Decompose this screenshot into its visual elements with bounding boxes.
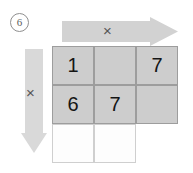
grid-cell[interactable]: 1 [52, 46, 94, 85]
step-number-badge: 6 [10, 13, 29, 32]
number-grid: 1 7 6 7 [52, 46, 178, 163]
horizontal-multiply-symbol: × [103, 23, 112, 38]
right-arrow-icon [62, 17, 178, 46]
grid-cell[interactable]: 7 [94, 85, 136, 124]
grid-cell[interactable]: 6 [52, 85, 94, 124]
figure-canvas: 6 × × 1 7 6 7 [0, 0, 193, 173]
down-arrow-icon [21, 49, 47, 153]
cell-value: 1 [67, 55, 78, 75]
cell-value: 7 [109, 94, 120, 114]
grid-cell[interactable]: 7 [136, 46, 178, 85]
vertical-multiply-symbol: × [26, 85, 35, 100]
grid-cell[interactable] [94, 124, 136, 163]
grid-cell [136, 124, 178, 163]
cell-value: 6 [67, 94, 78, 114]
grid-cell[interactable] [52, 124, 94, 163]
grid-cell[interactable] [94, 46, 136, 85]
cell-value: 7 [151, 55, 162, 75]
grid-cell[interactable] [136, 85, 178, 124]
